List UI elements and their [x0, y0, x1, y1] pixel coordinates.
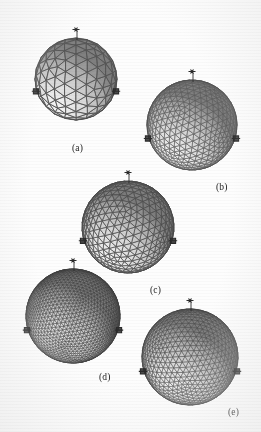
pole-probe-head [73, 28, 80, 32]
equator-anchor-marker-left [139, 369, 147, 374]
equator-anchor-marker-right [233, 369, 241, 374]
figure-caption-d: (d) [99, 372, 111, 382]
sphere-mesh-a [0, 0, 261, 432]
pole-probe-head [187, 299, 194, 303]
figure-caption-a: (a) [72, 143, 83, 153]
equator-anchor-marker-right [112, 89, 120, 94]
figure-caption-c: (c) [150, 285, 161, 295]
pole-probe-head [125, 171, 132, 175]
sphere-b [147, 80, 237, 170]
equator-anchor-marker-left [144, 136, 152, 141]
figure-caption-b: (b) [216, 182, 228, 192]
figure-caption-e: (e) [228, 407, 239, 417]
equator-anchor-marker-right [169, 238, 177, 243]
equator-anchor-marker-left [32, 89, 40, 94]
equator-anchor-marker-right [115, 328, 123, 333]
sphere-panel-a [0, 0, 261, 432]
figure-root: (a) (b) (c) (d) (e) [0, 0, 261, 432]
pole-probe-head [189, 70, 196, 74]
sphere-c [82, 181, 174, 273]
pole-probe-head [70, 259, 77, 263]
sphere-a [35, 38, 117, 120]
sphere-e [142, 309, 238, 405]
equator-anchor-marker-left [23, 328, 31, 333]
equator-anchor-marker-left [79, 238, 87, 243]
equator-anchor-marker-right [232, 136, 240, 141]
sphere-d [26, 269, 120, 363]
